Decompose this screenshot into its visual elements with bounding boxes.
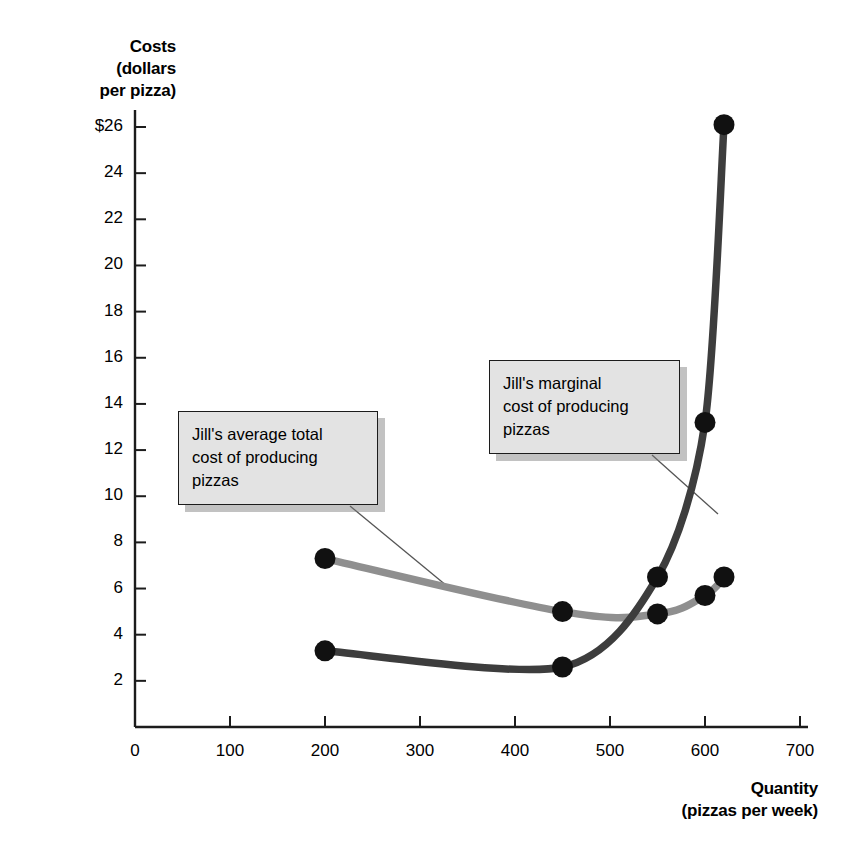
average-total-cost-point-600 (695, 585, 716, 606)
annotation-average-total-cost: Jill's average total cost of producing p… (178, 411, 378, 505)
marginal-cost-point-200 (315, 640, 336, 661)
average-total-cost-point-620 (714, 567, 735, 588)
marginal-cost-point-550 (647, 567, 668, 588)
plot-area (0, 0, 855, 868)
average-total-cost-point-200 (315, 548, 336, 569)
cost-curves-chart: Costs(dollarsper pizza) Quantity(pizzas … (0, 0, 855, 868)
average-total-cost-point-450 (552, 601, 573, 622)
average-total-cost-point-550 (647, 603, 668, 624)
annotation-marginal-cost-text: Jill's marginal cost of producing pizzas (503, 374, 629, 438)
annotation-marginal-cost: Jill's marginal cost of producing pizzas (489, 360, 680, 454)
marginal-cost-point-600 (695, 412, 716, 433)
marginal-cost-point-450 (552, 657, 573, 678)
marginal-cost-point-620 (714, 114, 735, 135)
annotation-average-total-cost-text: Jill's average total cost of producing p… (192, 425, 323, 489)
